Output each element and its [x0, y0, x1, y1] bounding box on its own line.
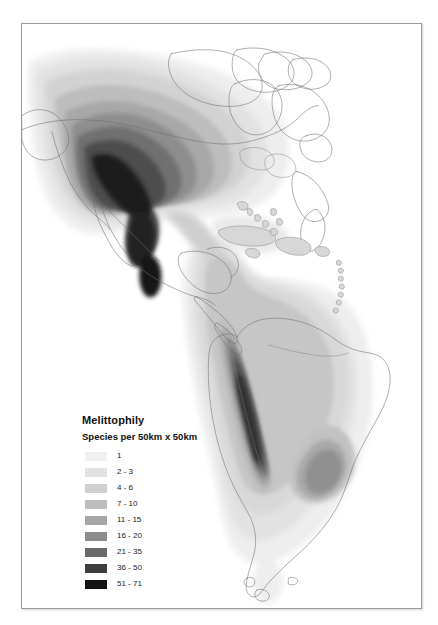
legend-row: 1: [82, 448, 262, 464]
map-panel: Melittophily Species per 50km x 50km 1 2…: [21, 23, 422, 609]
map-figure: Melittophily Species per 50km x 50km 1 2…: [0, 0, 438, 625]
legend-label-2: 2 - 3: [117, 468, 133, 476]
legend-row: 21 - 35: [82, 544, 262, 560]
legend-swatch-5: [85, 516, 107, 525]
legend-label-7: 21 - 35: [117, 548, 142, 556]
legend-swatch-6: [85, 532, 107, 541]
legend-row: 7 - 10: [82, 496, 262, 512]
legend-swatch-7: [85, 548, 107, 557]
legend-label-9: 51 - 71: [117, 580, 142, 588]
legend-label-8: 36 - 50: [117, 564, 142, 572]
legend-row: 11 - 15: [82, 512, 262, 528]
legend-swatch-3: [85, 484, 107, 493]
legend-label-3: 4 - 6: [117, 484, 133, 492]
legend-swatch-1: [85, 452, 107, 461]
legend-row: 51 - 71: [82, 576, 262, 592]
legend-row: 16 - 20: [82, 528, 262, 544]
legend-swatch-8: [85, 564, 107, 573]
legend-label-1: 1: [117, 452, 121, 460]
legend-label-5: 11 - 15: [117, 516, 141, 524]
map-legend: Melittophily Species per 50km x 50km 1 2…: [82, 414, 262, 592]
legend-row: 36 - 50: [82, 560, 262, 576]
legend-row: 2 - 3: [82, 464, 262, 480]
legend-title: Melittophily: [82, 414, 262, 426]
legend-swatch-4: [85, 500, 107, 509]
legend-label-6: 16 - 20: [117, 532, 142, 540]
legend-swatch-9: [85, 580, 107, 589]
legend-swatch-2: [85, 468, 107, 477]
legend-row: 4 - 6: [82, 480, 262, 496]
legend-label-4: 7 - 10: [117, 500, 137, 508]
legend-subtitle: Species per 50km x 50km: [82, 431, 262, 442]
